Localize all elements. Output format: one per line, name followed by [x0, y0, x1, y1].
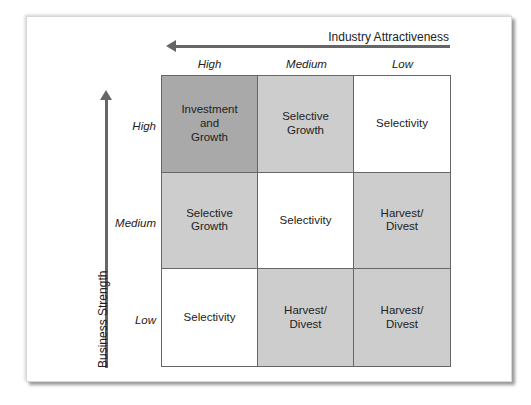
matrix-cell: Selective Growth — [258, 76, 354, 173]
matrix-cell: Selective Growth — [162, 173, 258, 270]
col-label-high: High — [161, 58, 258, 70]
left-arrow-icon — [175, 45, 450, 48]
matrix-cell: Harvest/ Divest — [354, 173, 450, 270]
matrix-cell: Investment and Growth — [162, 76, 258, 173]
row-label-high: High — [132, 120, 156, 132]
matrix-cell: Selectivity — [354, 76, 450, 173]
row-label-low: Low — [135, 314, 156, 326]
y-axis-title: Business Strength — [96, 271, 110, 368]
row-label-medium: Medium — [115, 217, 156, 229]
x-axis-title: Industry Attractiveness — [328, 30, 449, 44]
matrix-cell: Selectivity — [162, 269, 258, 366]
matrix-cell: Selectivity — [258, 173, 354, 270]
matrix-grid: Investment and Growth Selective Growth S… — [161, 75, 451, 367]
col-label-low: Low — [354, 58, 451, 70]
matrix-cell: Harvest/ Divest — [258, 269, 354, 366]
col-label-medium: Medium — [258, 58, 355, 70]
matrix-cell: Harvest/ Divest — [354, 269, 450, 366]
